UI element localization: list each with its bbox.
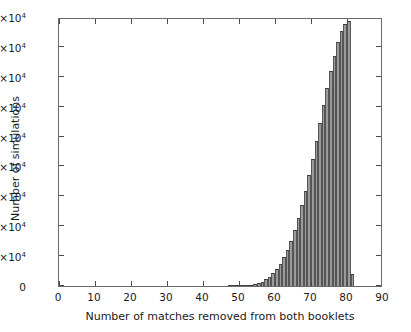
x-axis-tick (167, 19, 168, 24)
x-axis-tick (131, 281, 132, 286)
y-axis-tick (59, 106, 64, 107)
y-tick-label: 1×104 (0, 251, 26, 263)
y-axis-tick (59, 195, 64, 196)
x-axis-tick (275, 19, 276, 24)
y-axis-tick (376, 195, 381, 196)
x-tick-label: 40 (195, 291, 208, 303)
x-axis-tick (311, 19, 312, 24)
histogram-figure: 01×1042×1043×1044×1045×1046×1047×1048×10… (0, 0, 411, 332)
x-axis-tick (203, 19, 204, 24)
y-axis-tick (59, 46, 64, 47)
y-tick-label: 8×104 (0, 42, 26, 54)
x-tick-label: 50 (231, 291, 244, 303)
x-tick-label: 30 (159, 291, 172, 303)
x-axis-tick (131, 19, 132, 24)
histogram-bar (347, 21, 351, 286)
y-axis-tick (376, 106, 381, 107)
x-axis-tick (275, 281, 276, 286)
histogram-bar (351, 274, 355, 286)
x-axis-tick (59, 19, 60, 24)
x-tick-label: 20 (123, 291, 136, 303)
y-tick-label: 0 (19, 281, 26, 293)
x-tick-label: 10 (87, 291, 100, 303)
plot-area (58, 18, 382, 287)
x-axis-tick (95, 281, 96, 286)
x-axis-title: Number of matches removed from both book… (58, 310, 382, 323)
x-tick-label: 90 (375, 291, 388, 303)
y-axis-tick (59, 165, 64, 166)
x-axis-tick (203, 281, 204, 286)
y-axis-tick (376, 225, 381, 226)
y-axis-tick (59, 285, 64, 286)
y-axis-tick (376, 136, 381, 137)
histogram-bars (59, 19, 381, 286)
x-tick-label: 80 (339, 291, 352, 303)
x-axis-tick (347, 19, 348, 24)
y-axis-tick (376, 255, 381, 256)
y-axis-tick (59, 76, 64, 77)
y-axis-tick (59, 225, 64, 226)
y-axis-title: Number of simulations (9, 69, 22, 249)
x-axis-tick (239, 281, 240, 286)
y-axis-tick (376, 165, 381, 166)
x-axis-tick (239, 19, 240, 24)
x-axis-tick (95, 19, 96, 24)
x-tick-label: 70 (303, 291, 316, 303)
y-axis-tick (376, 285, 381, 286)
y-axis-tick (376, 46, 381, 47)
y-axis-tick (376, 76, 381, 77)
x-axis-tick (347, 281, 348, 286)
x-axis-tick (311, 281, 312, 286)
x-tick-label: 0 (55, 291, 62, 303)
y-axis-tick (59, 255, 64, 256)
x-axis-tick (167, 281, 168, 286)
x-tick-label: 60 (267, 291, 280, 303)
y-axis-tick (59, 136, 64, 137)
y-tick-label: 9×104 (0, 12, 26, 24)
